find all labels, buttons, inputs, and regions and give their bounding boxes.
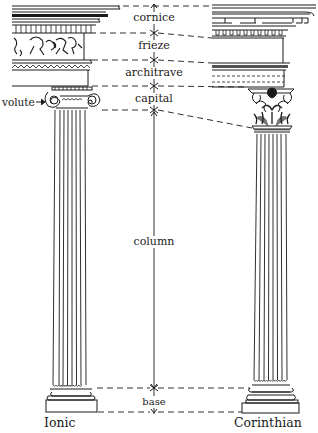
label-column: column — [133, 236, 176, 248]
ionic-capital — [45, 87, 100, 108]
label-volute: volute — [1, 96, 36, 108]
corinthian-capital — [248, 88, 294, 132]
caption-corinthian: Corinthian — [234, 415, 302, 430]
caption-ionic: Ionic — [44, 415, 76, 430]
label-cornice: cornice — [132, 12, 175, 24]
ionic-entablature — [12, 6, 120, 86]
ionic-shaft — [53, 110, 86, 387]
label-architrave: architrave — [124, 67, 184, 79]
label-base: base — [141, 396, 166, 408]
corinthian-shaft — [254, 134, 287, 382]
corinthian-entablature — [212, 5, 316, 87]
corinthian-base — [242, 385, 299, 413]
architecture-diagram: cornice frieze architrave capital column… — [0, 0, 318, 433]
diagram-drawing — [0, 0, 318, 433]
ionic-base — [46, 389, 97, 412]
label-capital: capital — [134, 93, 174, 105]
label-frieze: frieze — [137, 40, 171, 52]
